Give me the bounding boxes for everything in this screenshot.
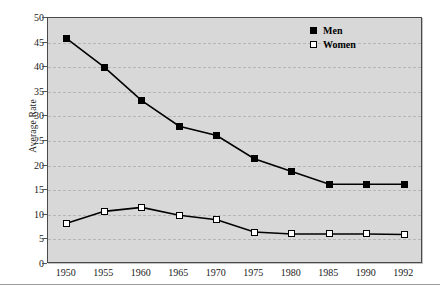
x-tick-label: 1992 [373, 267, 433, 278]
line-chart-figure: Average Rate MenWomen 051015202530354045… [0, 0, 440, 290]
y-tick-label: 15 [4, 184, 44, 195]
data-point-women [176, 212, 183, 219]
y-tick-label: 40 [4, 61, 44, 72]
y-tick-mark [42, 263, 47, 264]
y-tick-label: 10 [4, 208, 44, 219]
data-point-men [176, 123, 183, 130]
y-tick-label: 25 [4, 135, 44, 146]
y-tick-label: 20 [4, 159, 44, 170]
series-lines [48, 18, 423, 264]
data-point-women [363, 230, 370, 237]
y-tick-mark [42, 140, 47, 141]
y-tick-label: 35 [4, 85, 44, 96]
y-tick-label: 45 [4, 36, 44, 47]
data-point-women [251, 229, 258, 236]
y-tick-mark [42, 165, 47, 166]
data-point-men [138, 97, 145, 104]
y-tick-mark [42, 17, 47, 18]
data-point-women [213, 216, 220, 223]
data-point-men [288, 168, 295, 175]
data-point-men [63, 35, 70, 42]
data-point-women [101, 208, 108, 215]
series-line-men [67, 39, 405, 185]
y-tick-label: 30 [4, 110, 44, 121]
data-point-women [63, 220, 70, 227]
data-point-women [288, 230, 295, 237]
y-tick-mark [42, 91, 47, 92]
data-point-women [138, 204, 145, 211]
data-point-men [251, 155, 258, 162]
y-tick-mark [42, 66, 47, 67]
plot-area: MenWomen [47, 17, 422, 263]
data-point-men [326, 181, 333, 188]
data-point-men [213, 132, 220, 139]
y-tick-mark [42, 238, 47, 239]
y-tick-mark [42, 189, 47, 190]
data-point-men [363, 181, 370, 188]
y-tick-mark [42, 42, 47, 43]
data-point-women [401, 231, 408, 238]
footer-divider [0, 284, 440, 285]
data-point-men [401, 181, 408, 188]
data-point-women [326, 230, 333, 237]
y-tick-mark [42, 115, 47, 116]
y-tick-label: 50 [4, 12, 44, 23]
y-tick-mark [42, 214, 47, 215]
data-point-men [101, 64, 108, 71]
data-series-layer [48, 18, 421, 262]
y-tick-label: 5 [4, 233, 44, 244]
series-line-women [67, 207, 405, 234]
